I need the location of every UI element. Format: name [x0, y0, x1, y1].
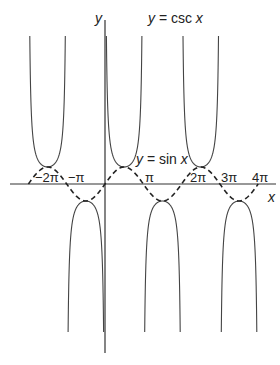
csc-label-x: x	[196, 10, 203, 26]
csc-branch	[30, 36, 66, 167]
x-axis-label: x	[268, 190, 275, 204]
y-axis-label: y	[95, 11, 102, 25]
sin-curve-label: y = sin x	[136, 152, 188, 166]
csc-label-rest: = csc	[155, 10, 196, 26]
csc-branch	[145, 201, 181, 332]
tick-label-minus-2pi: −2π	[35, 171, 59, 184]
tick-label-minus-pi: −π	[68, 171, 85, 184]
sin-label-x: x	[181, 151, 188, 167]
csc-curve-label: y = csc x	[148, 11, 203, 25]
csc-branch	[68, 201, 104, 332]
tick-label-3pi: 3π	[221, 171, 237, 184]
tick-label-2pi: 2π	[190, 171, 206, 184]
csc-branch	[106, 36, 141, 167]
sin-label-rest: = sin	[143, 151, 181, 167]
tick-label-pi: π	[145, 171, 154, 184]
tick-label-4pi: 4π	[252, 171, 268, 184]
csc-branch	[221, 201, 256, 332]
sin-label-var: y	[136, 151, 143, 167]
csc-branch	[183, 36, 219, 167]
csc-label-var: y	[148, 10, 155, 26]
axes	[10, 20, 276, 353]
